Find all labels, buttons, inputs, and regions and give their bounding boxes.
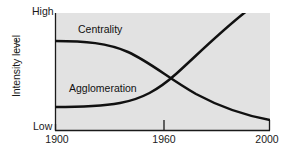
series-label-agglomeration: Agglomeration bbox=[69, 82, 137, 94]
x-tick-label-1900: 1900 bbox=[45, 133, 68, 145]
x-tick-label-1960: 1960 bbox=[152, 133, 175, 145]
x-tick-label-2000: 2000 bbox=[255, 133, 278, 145]
series-label-centrality: Centrality bbox=[78, 23, 122, 35]
series-line-centrality bbox=[55, 41, 270, 120]
chart-figure: Intensity level High Low Centrality Aggl… bbox=[0, 0, 285, 157]
x-axis-tick-labels: 1900 1960 2000 bbox=[0, 133, 285, 153]
